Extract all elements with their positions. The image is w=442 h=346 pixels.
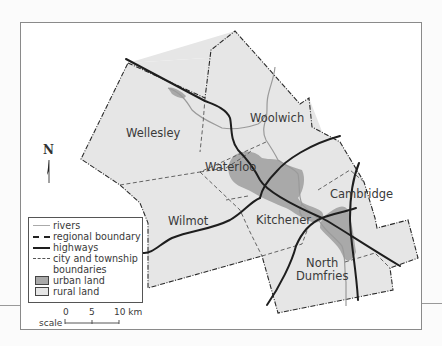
rivers-line-icon — [33, 220, 50, 231]
label-north-dumfries-line2: Dumfries — [296, 270, 348, 283]
label-cambridge: Cambridge — [330, 189, 393, 201]
label-woolwich: Woolwich — [250, 113, 304, 125]
legend-label: highways — [53, 242, 98, 253]
label-wilmot: Wilmot — [168, 216, 208, 228]
legend-label-line1: city and township — [53, 253, 138, 264]
label-waterloo: Waterloo — [205, 162, 256, 174]
rural-swatch-icon — [33, 286, 50, 297]
legend-label: rural land — [53, 286, 99, 297]
north-label: N — [43, 143, 54, 157]
scale-tick-0: 0 — [63, 307, 69, 317]
scale-word: scale — [39, 318, 62, 328]
legend-item-regional-boundary: regional boundary — [33, 231, 142, 242]
regional-boundary-line-icon — [33, 231, 50, 242]
legend-item-highways: highways — [33, 242, 142, 253]
legend-item-rural-land: rural land — [33, 286, 142, 297]
scale-tick-5: 5 — [89, 307, 95, 317]
legend-item-rivers: rivers — [33, 220, 142, 231]
map-legend: rivers regional boundary highways city a… — [28, 217, 143, 303]
scale-bar — [65, 319, 119, 324]
legend-label: urban land — [53, 275, 105, 286]
urban-swatch-icon — [33, 275, 50, 286]
highways-line-icon — [33, 242, 50, 253]
legend-label: city and township boundaries — [53, 253, 138, 275]
scale-tick-10: 10 km — [114, 307, 142, 317]
label-kitchener: Kitchener — [256, 215, 311, 227]
north-arrow-icon — [47, 160, 49, 183]
label-north-dumfries: North Dumfries — [296, 257, 348, 283]
city-boundary-line-icon — [33, 253, 50, 264]
label-wellesley: Wellesley — [126, 128, 180, 140]
legend-label: rivers — [53, 220, 80, 231]
legend-label-line2: boundaries — [53, 264, 138, 275]
legend-item-city-boundaries: city and township boundaries — [33, 253, 142, 275]
legend-label: regional boundary — [53, 231, 141, 242]
legend-item-urban-land: urban land — [33, 275, 142, 286]
